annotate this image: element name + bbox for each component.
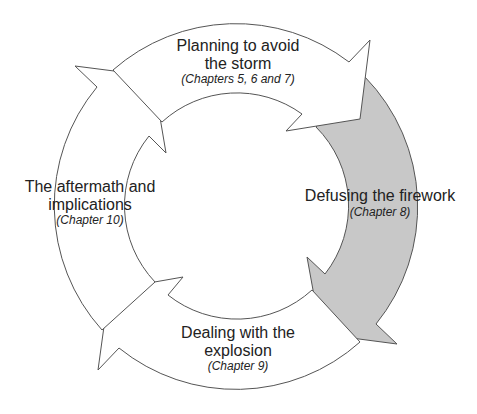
stage-label-dealing: Dealing with the explosion (Chapter 9) — [168, 324, 308, 373]
stage-title: Dealing with the — [168, 324, 308, 342]
stage-title: implications — [20, 196, 160, 214]
stage-label-defusing: Defusing the firework (Chapter 8) — [300, 187, 460, 219]
stage-label-planning: Planning to avoid the storm (Chapters 5,… — [168, 37, 308, 86]
stage-title: The aftermath and — [20, 178, 160, 196]
stage-chapters: (Chapter 8) — [300, 206, 460, 219]
stage-chapters: (Chapter 10) — [20, 214, 160, 227]
stage-chapters: (Chapter 9) — [168, 360, 308, 373]
stage-title: Defusing the firework — [300, 187, 460, 205]
stage-title: explosion — [168, 342, 308, 360]
stage-chapters: (Chapters 5, 6 and 7) — [168, 73, 308, 86]
stage-title: Planning to avoid — [168, 37, 308, 55]
stage-label-aftermath: The aftermath and implications (Chapter … — [20, 178, 160, 227]
stage-title: the storm — [168, 55, 308, 73]
